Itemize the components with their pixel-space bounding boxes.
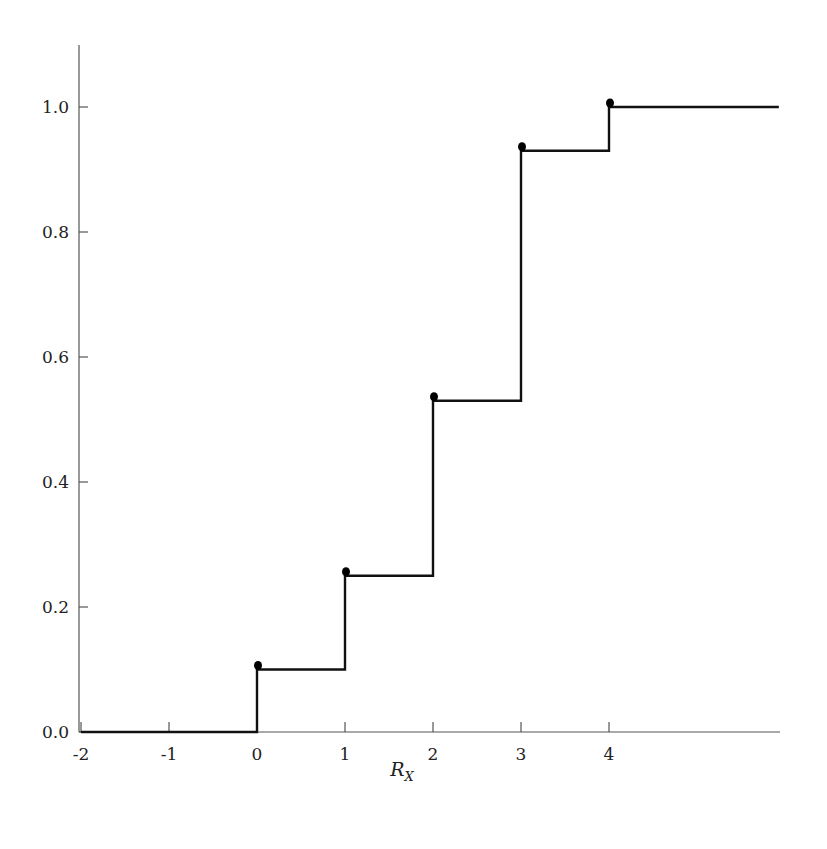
x-axis: -2-101234 [73, 722, 780, 764]
x-tick-label: -2 [73, 744, 90, 764]
y-tick-label: 0.2 [42, 597, 69, 617]
y-tick-label: 0.4 [42, 472, 69, 492]
y-axis: 0.00.20.40.60.81.0 [42, 45, 88, 742]
jump-point-dot [518, 142, 526, 151]
cdf-step-series [81, 107, 779, 732]
x-tick-label: 0 [252, 744, 263, 764]
jump-point-dot [430, 392, 438, 401]
y-tick-label: 0.0 [42, 722, 69, 742]
y-tick-label: 0.6 [42, 347, 69, 367]
jump-points [254, 99, 614, 671]
step-cdf-chart: 0.00.20.40.60.81.0 -2-101234 RX [0, 0, 827, 849]
x-tick-label: 4 [604, 744, 615, 764]
y-tick-label: 1.0 [42, 97, 69, 117]
jump-point-dot [342, 567, 350, 576]
x-tick-label: 3 [516, 744, 527, 764]
cdf-step-line [81, 107, 779, 732]
x-tick-label: 2 [428, 744, 439, 764]
y-tick-label: 0.8 [42, 222, 69, 242]
x-tick-label: -1 [161, 744, 178, 764]
jump-point-dot [606, 99, 614, 108]
x-axis-title: RX [389, 758, 414, 784]
x-tick-label: 1 [340, 744, 351, 764]
jump-point-dot [254, 661, 262, 670]
